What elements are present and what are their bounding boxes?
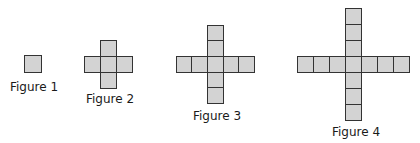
- square: [329, 56, 346, 73]
- square: [393, 56, 410, 73]
- square: [176, 56, 193, 73]
- square: [100, 72, 117, 89]
- square: [345, 72, 362, 89]
- square: [345, 8, 362, 25]
- square: [207, 72, 224, 89]
- square: [223, 56, 240, 73]
- square: [361, 56, 378, 73]
- square: [84, 56, 101, 73]
- square: [207, 25, 224, 42]
- square: [297, 56, 314, 73]
- square: [345, 88, 362, 105]
- square: [191, 56, 208, 73]
- square: [238, 56, 255, 73]
- square: [24, 55, 42, 73]
- square: [100, 40, 117, 57]
- square: [377, 56, 394, 73]
- figure-2-label: Figure 2: [86, 93, 134, 106]
- figure-1-label: Figure 1: [10, 81, 58, 94]
- square: [345, 104, 362, 121]
- square: [345, 24, 362, 41]
- square: [345, 56, 362, 73]
- square: [207, 56, 224, 73]
- square: [100, 56, 117, 73]
- figure-3-label: Figure 3: [193, 110, 241, 123]
- square: [345, 40, 362, 57]
- square: [313, 56, 330, 73]
- square: [116, 56, 133, 73]
- square: [207, 87, 224, 104]
- square: [207, 40, 224, 57]
- figure-4-label: Figure 4: [332, 126, 380, 139]
